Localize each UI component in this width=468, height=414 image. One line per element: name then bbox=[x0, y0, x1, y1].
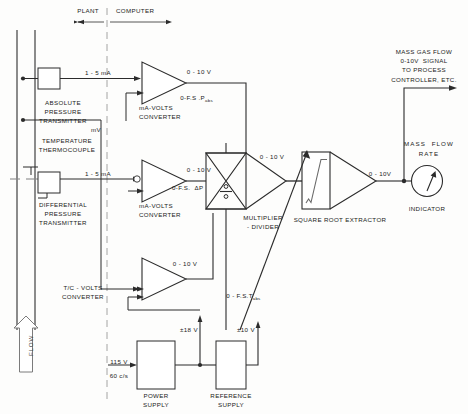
ma-volts-converter-pabs-label: mA-VOLTS CONVERTER bbox=[139, 103, 181, 121]
power-supply-out-label: ±18 V bbox=[180, 326, 198, 334]
dp-range-label: 0-F.S. ΔP bbox=[172, 184, 203, 192]
multiplier-out-label: 0 - 10 V bbox=[260, 153, 284, 161]
multiplier-divider-label: MULTIPLIER - DIVIDER bbox=[243, 213, 283, 231]
sqrt-out-label: 0 - 10V bbox=[369, 170, 391, 178]
plant-label: PLANT bbox=[77, 7, 99, 15]
diagram-canvas: PLANT COMPUTER 1 - 5 mA ABSOLUTE PRESSUR… bbox=[0, 0, 468, 414]
reference-supply-out-label: ±10 V bbox=[237, 326, 255, 334]
ap-current-label: 1 - 5 mA bbox=[85, 69, 111, 77]
power-supply-label: POWER SUPPLY bbox=[143, 391, 169, 409]
mass-gas-flow-note: MASS GAS FLOW 0-10V SIGNAL TO PROCESS CO… bbox=[391, 47, 456, 84]
mass-flow-rate-label: MASS FLOW RATE bbox=[404, 139, 454, 158]
mass-flow-indicator-symbol bbox=[412, 166, 443, 197]
ap-range-text: 0-F.S .P bbox=[180, 94, 205, 101]
ma-volts-converter-dp-label: mA-VOLTS CONVERTER bbox=[139, 201, 181, 219]
tc-millivolt-label: mV bbox=[91, 126, 101, 134]
plant-computer-arrows bbox=[78, 20, 172, 24]
tc-out-volts-label: 0 - 10 V bbox=[173, 260, 197, 268]
process-pipe bbox=[10, 30, 38, 330]
absolute-pressure-transmitter-label: ABSOLUTE PRESSURE TRANSMITTER bbox=[39, 98, 87, 125]
square-root-extractor-label: SQUARE ROOT EXTRACTOR bbox=[294, 216, 387, 224]
tc-range-label: 0 - F.S.Tabs bbox=[218, 284, 261, 312]
computer-label: COMPUTER bbox=[116, 7, 154, 15]
tc-range-subscript: abs bbox=[253, 296, 261, 301]
reference-supply-label: REFERENCE SUPPLY bbox=[210, 391, 251, 409]
mains-voltage-label: 115 V bbox=[110, 358, 127, 366]
dp-out-volts-label: 0 - 10 V bbox=[187, 166, 211, 174]
tc-volts-converter bbox=[128, 213, 213, 310]
tc-range-text: 0 - F.S.T bbox=[226, 292, 253, 299]
flow-label: FLOW bbox=[27, 335, 34, 356]
absolute-pressure-transmitter-symbol bbox=[21, 68, 141, 89]
ap-out-volts-label: 0 - 10 V bbox=[187, 68, 211, 76]
differential-pressure-transmitter-label: DIFFERENTIAL PRESSURE TRANSMITTER bbox=[39, 200, 87, 227]
mains-frequency-label: 60 c/s bbox=[110, 372, 129, 380]
tc-volts-converter-label: T/C - VOLTS CONVERTER bbox=[62, 283, 104, 301]
square-root-extractor-symbol bbox=[302, 152, 404, 209]
dp-current-label: 1 - 5 mA bbox=[85, 170, 111, 178]
ap-range-subscript: abs bbox=[205, 98, 213, 103]
differential-pressure-transmitter-symbol bbox=[23, 167, 140, 198]
indicator-label: INDICATOR bbox=[409, 205, 446, 213]
temperature-thermocouple-label: TEMPERATURE THERMOCOUPLE bbox=[39, 136, 95, 154]
flow-arrow bbox=[14, 316, 38, 372]
